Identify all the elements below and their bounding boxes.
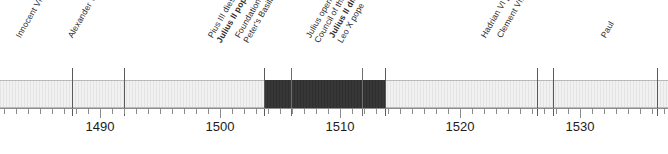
axis-tick-minor: [520, 108, 521, 114]
axis-tick-major: [340, 108, 341, 118]
timeline-event-label-julius-opens-18th-general-council: Julius opens 18th GeneralCouncil of the …: [304, 0, 415, 70]
axis-tick-minor: [160, 108, 161, 114]
timeline-event-label-alexander-vi-pope: Alexander VI pope: [66, 0, 162, 70]
axis-tick-minor: [232, 108, 233, 114]
axis-tick-minor: [604, 108, 605, 114]
event-label-line1: Hadrian VI pope: [479, 0, 519, 40]
axis-decade-label: 1510: [326, 119, 355, 134]
axis-tick-minor: [328, 108, 329, 114]
axis-tick-minor: [532, 108, 533, 114]
axis-decade-label: 1500: [206, 119, 235, 134]
axis-tick-minor: [280, 108, 281, 114]
axis-tick-minor: [316, 108, 317, 114]
axis-tick-minor: [484, 108, 485, 114]
axis-tick-minor: [172, 108, 173, 114]
axis-tick-minor: [664, 108, 665, 114]
timeline-event-label-clement-vii-pope: Clement VII pope: [495, 0, 589, 70]
timeline-event-label-foundation-stone-st-peters: Foundation stone of new St.Peter's Basil…: [233, 0, 350, 70]
axis-tick-minor: [88, 108, 89, 114]
axis-tick-minor: [184, 108, 185, 114]
timeline-span-julius-ii-papacy: [264, 80, 385, 108]
axis-tick-minor: [304, 108, 305, 114]
axis-tick-minor: [544, 108, 545, 114]
axis-tick-major: [580, 108, 581, 118]
axis-tick-major: [220, 108, 221, 118]
event-label-line1: Pius III dies;: [206, 0, 242, 40]
axis-tick-minor: [244, 108, 245, 114]
axis-tick-minor: [364, 108, 365, 114]
axis-tick-minor: [4, 108, 5, 114]
axis-tick-major: [100, 108, 101, 118]
event-label-line1: Innocent VIII pope: [14, 0, 58, 40]
axis-tick-minor: [256, 108, 257, 114]
event-label-line1: Clement VII pope: [495, 0, 537, 40]
axis-tick-minor: [40, 108, 41, 114]
axis-tick-minor: [412, 108, 413, 114]
event-label-line1: Julius opens 18th General: [304, 0, 363, 40]
axis-tick-minor: [436, 108, 437, 114]
axis-decade-label: 1520: [446, 119, 475, 134]
timeline-event-label-pius-iii-dies-julius-ii-pope: Pius III dies;Julius II pope: [206, 0, 294, 70]
axis-tick-minor: [424, 108, 425, 114]
axis-tick-minor: [148, 108, 149, 114]
axis-decade-label: 1490: [86, 119, 115, 134]
axis-tick-minor: [376, 108, 377, 114]
axis-tick-minor: [400, 108, 401, 114]
axis-tick-minor: [208, 108, 209, 114]
axis-tick-minor: [52, 108, 53, 114]
timeline-event-label-hadrian-vi-pope: Hadrian VI pope: [479, 0, 571, 70]
timeline-chart: Innocent VIII popeAlexander VI popePius …: [0, 0, 668, 154]
axis-tick-minor: [292, 108, 293, 114]
event-label-line1: Alexander VI pope: [66, 0, 110, 40]
event-label-line2: Council of the Church: [313, 0, 372, 45]
axis-tick-major: [460, 108, 461, 118]
axis-tick-minor: [592, 108, 593, 114]
axis-tick-minor: [472, 108, 473, 114]
event-label-line2: Julius II pope: [215, 0, 251, 45]
axis-tick-minor: [76, 108, 77, 114]
axis-tick-minor: [568, 108, 569, 114]
axis-decade-label: 1530: [566, 119, 595, 134]
axis-tick-minor: [628, 108, 629, 114]
axis-tick-minor: [616, 108, 617, 114]
event-label-line1: Paul: [599, 20, 616, 40]
timeline-event-label-innocent-viii-pope: Innocent VIII pope: [14, 0, 110, 70]
axis-tick-minor: [448, 108, 449, 114]
event-label-line1: Julius II dies;: [327, 0, 363, 40]
timeline-event-label-paul-pope: Paul: [599, 20, 668, 70]
axis-tick-minor: [112, 108, 113, 114]
axis-tick-minor: [268, 108, 269, 114]
axis-tick-minor: [136, 108, 137, 114]
event-label-line2: Leo X pope: [336, 0, 372, 45]
axis-tick-minor: [556, 108, 557, 114]
axis-tick-minor: [28, 108, 29, 114]
axis-tick-minor: [124, 108, 125, 114]
axis-tick-minor: [652, 108, 653, 114]
timeline-event-label-julius-ii-dies-leo-x-pope: Julius II dies;Leo X pope: [327, 0, 415, 70]
axis-tick-minor: [64, 108, 65, 114]
event-label-line1: Foundation stone of new St.: [233, 0, 297, 40]
axis-tick-minor: [196, 108, 197, 114]
axis-tick-minor: [640, 108, 641, 114]
axis-tick-minor: [508, 108, 509, 114]
event-label-line2: Peter's Basilica laid by Julius: [242, 0, 306, 45]
axis-tick-minor: [16, 108, 17, 114]
axis-tick-minor: [388, 108, 389, 114]
axis-tick-minor: [352, 108, 353, 114]
axis-tick-minor: [496, 108, 497, 114]
